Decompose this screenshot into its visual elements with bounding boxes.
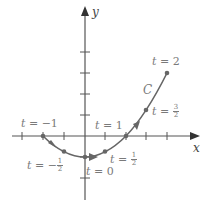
- label-t-three-halves: t = 32: [152, 104, 179, 119]
- parametric-curve-figure: [0, 0, 214, 216]
- label-t-1: t = 1: [95, 120, 123, 131]
- x-axis-arrow-icon: [190, 132, 200, 140]
- x-axis-label: x: [193, 142, 200, 154]
- label-t-neg1: t = −1: [21, 118, 58, 129]
- label-t-half: t = 12: [110, 152, 137, 167]
- curve-label: C: [143, 84, 152, 96]
- direction-arrow-icon: [89, 153, 98, 161]
- label-t-2: t = 2: [152, 56, 180, 67]
- label-t-neg-half: t = −12: [27, 158, 63, 173]
- label-t-0: t = 0: [86, 166, 114, 177]
- y-axis-label: y: [92, 6, 99, 18]
- y-axis-arrow-icon: [81, 6, 89, 16]
